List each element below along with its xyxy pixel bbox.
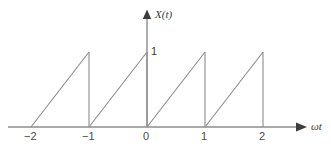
x-tick-label-2: 2 xyxy=(259,131,265,142)
x-axis-arrowhead xyxy=(296,123,307,132)
x-tick-label-neg2: −2 xyxy=(24,131,37,142)
x-tick-label-1: 1 xyxy=(201,131,207,142)
x-axis-label: ωt xyxy=(311,121,322,132)
ramp-segment-1 xyxy=(31,52,89,127)
y-axis-arrowhead xyxy=(143,10,151,20)
x-tick-label-neg1: −1 xyxy=(82,131,95,142)
sawtooth-waveform-figure: X(t) ωt 1 −2 −1 0 1 2 xyxy=(0,0,331,156)
ramp-segment-2 xyxy=(89,52,147,127)
ramp-segment-4 xyxy=(205,52,263,127)
sawtooth-trace xyxy=(31,52,263,127)
peak-value-label: 1 xyxy=(151,46,157,57)
plot-canvas xyxy=(0,0,331,156)
x-tick-label-0: 0 xyxy=(143,131,149,142)
y-axis-label: X(t) xyxy=(155,9,172,20)
ramp-segment-3 xyxy=(147,52,205,127)
